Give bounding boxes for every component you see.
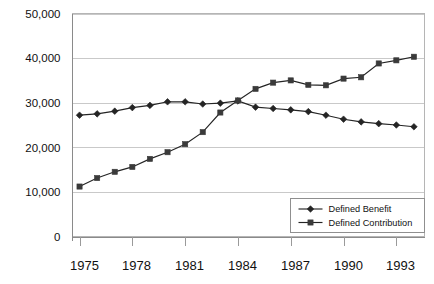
chart-background (0, 0, 434, 284)
y-tick-label-0: 0 (54, 231, 60, 243)
data-point-1994 (411, 54, 416, 59)
legend-label: Defined Contribution (329, 218, 413, 228)
data-point-1980 (165, 150, 170, 155)
data-point-1976 (95, 175, 100, 180)
x-tick-label-1981: 1981 (175, 258, 204, 273)
x-tick-label-1993: 1993 (386, 258, 415, 273)
chart-legend: Defined BenefitDefined Contribution (291, 199, 425, 233)
data-point-1990 (341, 76, 346, 81)
data-point-1981 (183, 142, 188, 147)
data-point-1989 (323, 83, 328, 88)
data-point-1978 (130, 164, 135, 169)
x-tick-label-1990: 1990 (334, 258, 363, 273)
y-tick-label-50000: 50,000 (25, 8, 60, 20)
data-point-1992 (376, 61, 381, 66)
y-tick-label-30000: 30,000 (25, 97, 60, 109)
x-tick-label-1975: 1975 (70, 258, 99, 273)
data-point-1977 (112, 169, 117, 174)
data-point-1991 (359, 75, 364, 80)
data-point-1985 (253, 86, 258, 91)
data-point-1975 (77, 184, 82, 189)
data-point-1986 (271, 80, 276, 85)
data-point-1993 (394, 58, 399, 63)
x-tick-label-1984: 1984 (228, 258, 257, 273)
x-tick-label-1978: 1978 (122, 258, 151, 273)
y-tick-label-20000: 20,000 (25, 142, 60, 154)
y-tick-label-10000: 10,000 (25, 186, 60, 198)
legend-marker-square (308, 220, 313, 225)
data-point-1988 (306, 82, 311, 87)
data-point-1979 (147, 156, 152, 161)
data-point-1982 (200, 130, 205, 135)
data-point-1987 (288, 78, 293, 83)
y-tick-label-40000: 40,000 (25, 52, 60, 64)
line-chart: 010,00020,00030,00040,00050,000 19751978… (0, 0, 434, 284)
chart-container: 010,00020,00030,00040,00050,000 19751978… (0, 0, 434, 284)
data-point-1984 (235, 98, 240, 103)
data-point-1983 (218, 110, 223, 115)
x-tick-label-1987: 1987 (281, 258, 310, 273)
legend-label: Defined Benefit (329, 204, 392, 214)
